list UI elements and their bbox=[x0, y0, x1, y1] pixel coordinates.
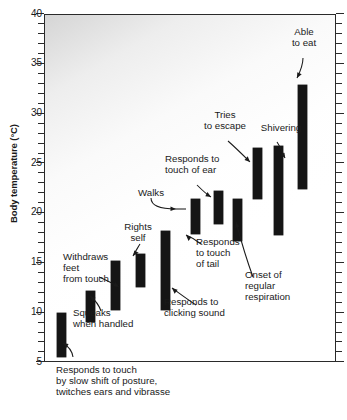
y-tick-major-right bbox=[336, 361, 344, 362]
annotation-responds-tail: Responds to touch of tail bbox=[196, 237, 256, 269]
annotation-squeaks: Squeaks when handled bbox=[73, 308, 168, 330]
y-tick-minor-right bbox=[336, 143, 342, 144]
y-tick-major-right bbox=[336, 212, 344, 213]
y-tick-minor-right bbox=[336, 232, 342, 233]
y-tick-label: 40 bbox=[16, 9, 42, 19]
range-bar bbox=[214, 191, 223, 224]
range-bar bbox=[274, 146, 283, 234]
y-tick-minor-right bbox=[336, 272, 342, 273]
y-tick-minor-right bbox=[336, 351, 342, 352]
y-tick-label: 35 bbox=[16, 58, 42, 68]
y-tick-minor-right bbox=[336, 172, 342, 173]
y-tick-label: 5 bbox=[16, 357, 42, 367]
range-bar bbox=[57, 313, 66, 357]
y-tick-minor-right bbox=[336, 73, 342, 74]
y-tick-minor-right bbox=[336, 123, 342, 124]
annotation-walks: Walks bbox=[128, 188, 174, 199]
y-tick-minor-right bbox=[336, 103, 342, 104]
y-tick-label: 25 bbox=[16, 158, 42, 168]
annotation-withdraws: Withdraws feet from touch bbox=[63, 252, 143, 284]
annotation-able-to-eat: Able to eat bbox=[280, 27, 328, 49]
y-tick-major-right bbox=[336, 162, 344, 163]
annotation-responds-touch-slow: Responds to touch by slow shift of postu… bbox=[56, 365, 256, 397]
y-tick-minor-right bbox=[336, 242, 342, 243]
range-bar bbox=[191, 199, 200, 234]
y-tick-minor-right bbox=[336, 93, 342, 94]
y-tick-minor-right bbox=[336, 83, 342, 84]
y-tick-label: 10 bbox=[16, 307, 42, 317]
y-tick-label: 20 bbox=[16, 207, 42, 217]
y-tick-minor-right bbox=[336, 282, 342, 283]
y-tick-minor-right bbox=[336, 292, 342, 293]
y-tick-label: 15 bbox=[16, 257, 42, 267]
y-tick-minor-right bbox=[336, 33, 342, 34]
y-tick-major-right bbox=[336, 13, 344, 14]
y-tick-minor-right bbox=[336, 302, 342, 303]
y-tick-minor-right bbox=[336, 43, 342, 44]
y-tick-major-right bbox=[336, 63, 344, 64]
y-tick-label: 30 bbox=[16, 108, 42, 118]
y-tick-major-right bbox=[336, 262, 344, 263]
range-bar bbox=[253, 148, 262, 199]
annotation-rights-self: Rights self bbox=[113, 222, 163, 244]
y-tick-minor-right bbox=[336, 23, 342, 24]
y-tick-minor-right bbox=[336, 341, 342, 342]
y-tick-minor-right bbox=[336, 322, 342, 323]
annotation-responds-ear: Responds to touch of ear bbox=[165, 154, 249, 176]
annotation-onset-respiration: Onset of regular respiration bbox=[245, 270, 315, 302]
y-tick-minor-right bbox=[336, 202, 342, 203]
range-bar bbox=[233, 199, 242, 241]
annotation-responds-clicking: Responds to clicking sound bbox=[164, 297, 254, 319]
chart-figure: Body temperature (°C) 510152025303540 bbox=[0, 0, 347, 420]
y-tick-minor-right bbox=[336, 153, 342, 154]
y-tick-minor-right bbox=[336, 332, 342, 333]
y-tick-minor-right bbox=[336, 252, 342, 253]
y-tick-major-right bbox=[336, 113, 344, 114]
y-tick-minor-right bbox=[336, 222, 342, 223]
range-bar bbox=[298, 85, 307, 189]
y-tick-major-right bbox=[336, 312, 344, 313]
y-tick-minor-right bbox=[336, 192, 342, 193]
y-tick-minor-right bbox=[336, 182, 342, 183]
y-tick-minor-right bbox=[336, 133, 342, 134]
annotation-shivering: Shivering bbox=[250, 123, 312, 134]
y-tick-minor-right bbox=[336, 53, 342, 54]
